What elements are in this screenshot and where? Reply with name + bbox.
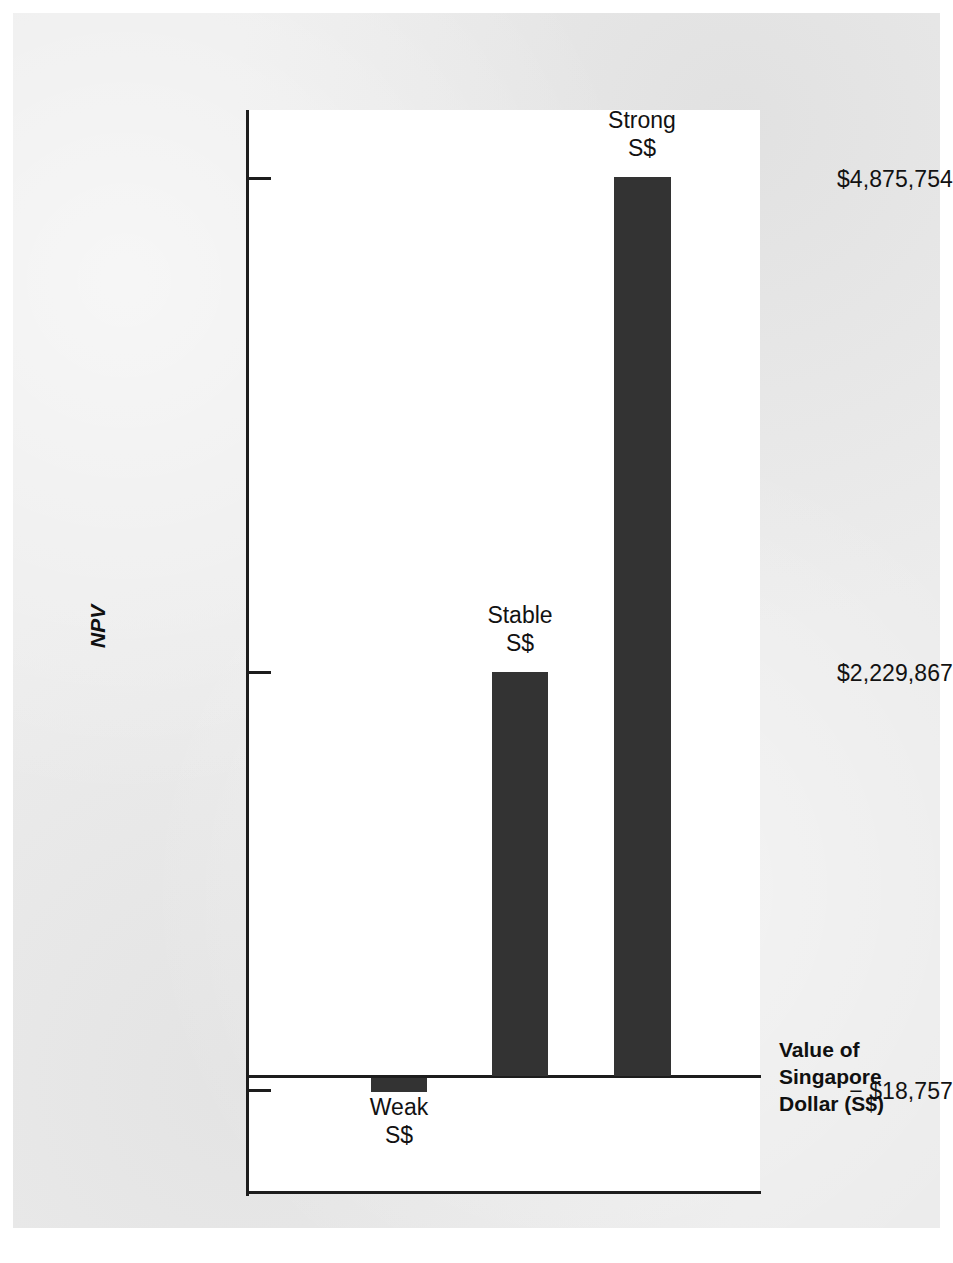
bar-stable[interactable] bbox=[492, 672, 548, 1076]
npv-bar-chart-figure: $4,875,754 $2,229,867 − $18,757 NPV Valu… bbox=[0, 0, 953, 1263]
x-axis-title-line-3: Dollar (S$) bbox=[779, 1090, 944, 1117]
x-axis-line bbox=[246, 1191, 761, 1194]
bar-label-strong: Strong S$ bbox=[542, 106, 742, 162]
bar-strong[interactable] bbox=[614, 177, 671, 1076]
y-axis-line bbox=[246, 110, 249, 1196]
y-tick-middle bbox=[249, 671, 271, 674]
bar-weak[interactable] bbox=[371, 1078, 427, 1092]
bar-label-weak: Weak S$ bbox=[299, 1093, 499, 1149]
y-tick-top bbox=[249, 177, 271, 180]
x-axis-title-line-1: Value of bbox=[779, 1036, 944, 1063]
y-tick-label-top: $4,875,754 bbox=[733, 166, 953, 193]
y-tick-label-middle: $2,229,867 bbox=[733, 660, 953, 687]
bar-label-stable: Stable S$ bbox=[420, 601, 620, 657]
y-axis-title: NPV bbox=[86, 605, 110, 648]
y-tick-bottom bbox=[249, 1089, 271, 1092]
x-axis-title-line-2: Singapore bbox=[779, 1063, 944, 1090]
x-axis-title: Value of Singapore Dollar (S$) bbox=[779, 1036, 944, 1117]
